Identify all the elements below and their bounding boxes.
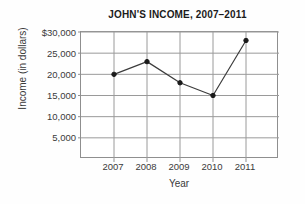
chart-title: JOHN'S INCOME, 2007–2011 — [70, 9, 285, 20]
plot-area — [80, 31, 278, 158]
income-line — [114, 40, 246, 95]
y-tick-label: 15,000 — [18, 90, 76, 101]
x-tick-label: 2011 — [225, 161, 265, 172]
y-tick-label: $30,000 — [18, 27, 76, 38]
data-point-marker — [112, 72, 116, 76]
data-point-marker — [244, 38, 248, 42]
y-tick-label: 20,000 — [18, 69, 76, 80]
y-tick-label: 5,000 — [18, 132, 76, 143]
data-point-marker — [178, 81, 182, 85]
data-point-marker — [145, 59, 149, 63]
y-tick-label: 25,000 — [18, 48, 76, 59]
x-axis-title: Year — [80, 178, 278, 189]
y-axis-tick-labels: $30,000 25,000 20,000 15,000 10,000 5,00… — [16, 0, 76, 204]
data-point-marker — [211, 93, 215, 97]
income-line-chart: JOHN'S INCOME, 2007–2011 Income (in doll… — [0, 0, 305, 204]
y-tick-label: 10,000 — [18, 111, 76, 122]
income-series — [81, 32, 279, 159]
